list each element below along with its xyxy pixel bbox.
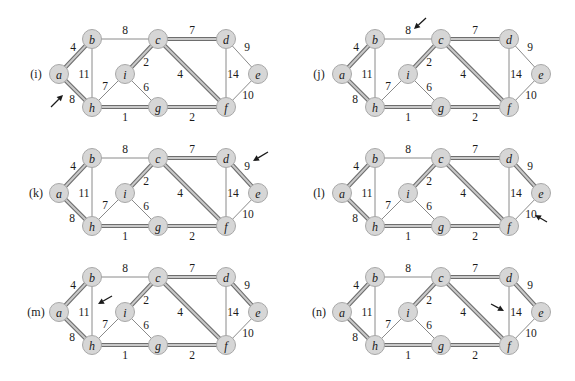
edge-weight-c-i: 2	[143, 56, 149, 68]
edge-weight-a-b: 4	[70, 160, 76, 172]
edge-weight-c-f: 4	[460, 187, 466, 199]
edge-weight-c-i: 2	[143, 175, 149, 187]
edge-weight-h-i: 7	[102, 80, 108, 92]
panel-label: (m)	[27, 305, 44, 319]
edge-weight-b-h: 11	[78, 306, 89, 318]
edge-weight-b-h: 11	[78, 68, 89, 80]
pointer-arrow-icon	[98, 296, 112, 304]
edge-weight-h-g: 1	[405, 111, 411, 123]
vertex-label-c: c	[155, 271, 161, 285]
edge-weight-g-f: 2	[189, 111, 195, 123]
vertex-label-i: i	[406, 68, 409, 82]
edge-weight-a-h: 8	[352, 212, 358, 224]
vertex-label-d: d	[223, 152, 230, 166]
vertex-label-g: g	[438, 101, 444, 115]
panel-label: (n)	[312, 305, 326, 319]
edge-weight-a-b: 4	[70, 279, 76, 291]
vertex-label-h: h	[372, 339, 378, 353]
edge-weight-c-d: 7	[472, 143, 478, 155]
edge-weight-c-i: 2	[143, 294, 149, 306]
panel-label: (l)	[313, 186, 324, 200]
edge-weight-i-g: 6	[143, 81, 149, 93]
edge-weight-b-c: 8	[122, 262, 128, 274]
edge-weight-i-g: 6	[143, 200, 149, 212]
vertex-label-h: h	[89, 220, 95, 234]
pointer-arrow-icon	[51, 95, 63, 107]
pointer-arrow-icon	[253, 152, 268, 161]
mst-edge-fill-c-f	[158, 158, 226, 226]
edge-weight-a-h: 8	[69, 93, 75, 105]
vertex-label-b: b	[372, 271, 378, 285]
edge-weight-b-c: 8	[405, 24, 411, 36]
edge-weight-i-g: 6	[426, 200, 432, 212]
edge-weight-d-f: 14	[510, 68, 522, 80]
edge-weight-d-e: 9	[244, 279, 250, 291]
edge-weight-d-e: 9	[527, 41, 533, 53]
edge-weight-h-g: 1	[122, 230, 128, 242]
edge-weight-i-g: 6	[426, 81, 432, 93]
edge-weight-c-f: 4	[177, 306, 183, 318]
edge-weight-h-g: 1	[122, 111, 128, 123]
vertex-label-h: h	[372, 220, 378, 234]
edge-weight-b-h: 11	[78, 187, 89, 199]
edge-weight-g-f: 2	[472, 349, 478, 361]
edge-weight-b-c: 8	[405, 262, 411, 274]
vertex-label-a: a	[56, 306, 62, 320]
edge-weight-c-d: 7	[472, 262, 478, 274]
vertex-label-b: b	[372, 33, 378, 47]
edge-weight-c-f: 4	[177, 187, 183, 199]
vertex-label-c: c	[155, 33, 161, 47]
edge-weight-d-f: 14	[227, 68, 239, 80]
edge-weight-a-h: 8	[352, 93, 358, 105]
edge-weight-a-h: 8	[69, 331, 75, 343]
vertex-label-d: d	[506, 271, 513, 285]
edge-weight-h-i: 7	[385, 80, 391, 92]
edge-weight-d-f: 14	[227, 187, 239, 199]
panel-k: (k)48811724914107612abcdefghi	[29, 143, 268, 242]
edge-weight-h-i: 7	[102, 199, 108, 211]
vertex-label-c: c	[438, 271, 444, 285]
edge-weight-h-g: 1	[405, 230, 411, 242]
edge-weight-h-g: 1	[405, 349, 411, 361]
edge-weight-e-f: 10	[525, 208, 537, 220]
mst-edge-fill-c-f	[441, 39, 509, 107]
edge-weight-i-g: 6	[143, 319, 149, 331]
vertex-label-b: b	[89, 152, 95, 166]
edge-weight-e-f: 10	[242, 208, 254, 220]
edge-weight-d-e: 9	[244, 41, 250, 53]
vertex-label-g: g	[155, 101, 161, 115]
edge-weight-b-c: 8	[405, 143, 411, 155]
edge-weight-c-d: 7	[472, 24, 478, 36]
vertex-label-h: h	[89, 339, 95, 353]
edge-weight-e-f: 10	[242, 89, 254, 101]
edge-weight-c-d: 7	[189, 143, 195, 155]
edge-weight-i-g: 6	[426, 319, 432, 331]
panel-i: (i)48811724914107612abcdefghi	[30, 24, 267, 123]
vertex-label-c: c	[438, 33, 444, 47]
vertex-label-a: a	[339, 187, 345, 201]
edge-weight-e-f: 10	[525, 89, 537, 101]
vertex-label-i: i	[123, 187, 126, 201]
vertex-label-e: e	[255, 68, 261, 82]
panel-label: (j)	[313, 67, 324, 81]
edge-weight-h-i: 7	[385, 318, 391, 330]
edge-weight-d-e: 9	[244, 160, 250, 172]
edge-weight-d-e: 9	[527, 279, 533, 291]
edge-weight-h-g: 1	[122, 349, 128, 361]
kruskal-figure: (i)48811724914107612abcdefghi(j)48811724…	[0, 0, 575, 381]
edge-weight-g-f: 2	[189, 349, 195, 361]
edge-weight-d-e: 9	[527, 160, 533, 172]
edge-weight-c-i: 2	[426, 56, 432, 68]
vertex-label-e: e	[538, 306, 544, 320]
edge-weight-a-b: 4	[70, 41, 76, 53]
vertex-label-b: b	[372, 152, 378, 166]
edge-weight-b-c: 8	[122, 143, 128, 155]
vertex-label-g: g	[155, 220, 161, 234]
edge-weight-b-h: 11	[361, 187, 372, 199]
vertex-label-g: g	[438, 339, 444, 353]
edge-weight-c-i: 2	[426, 294, 432, 306]
edge-weight-g-f: 2	[189, 230, 195, 242]
vertex-label-e: e	[538, 68, 544, 82]
edge-weight-h-i: 7	[102, 318, 108, 330]
panel-label: (i)	[30, 67, 41, 81]
